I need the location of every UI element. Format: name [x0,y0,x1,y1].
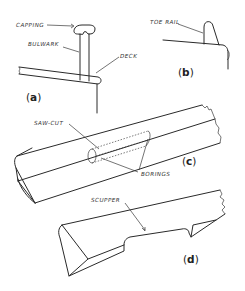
label-capping: CAPPING [16,22,44,28]
label-deck: DECK [120,53,138,59]
capping-shape [74,25,95,34]
label-bulwark: BULWARK [28,41,60,47]
label-scupper: SCUPPER [91,197,120,203]
panel-d: SCUPPER (d) [59,190,225,276]
caption-b: (b) [178,66,194,78]
label-borings: BORINGS [141,171,170,177]
panel-c: SAW-CUT BORINGS (c) [15,105,221,203]
toe-rail-shape [204,22,219,45]
caption-c: (c) [182,155,196,167]
label-toe-rail: TOE RAIL [150,19,180,25]
label-saw-cut: SAW-CUT [34,120,63,126]
bulwark-shape [80,34,89,81]
panel-a: CAPPING BULWARK DECK (a) [16,22,138,113]
boring-end [88,149,96,163]
panel-b: TOE RAIL (b) [150,19,229,78]
caption-a: (a) [26,91,41,103]
caption-d: (d) [183,253,199,265]
boat-parts-diagram: CAPPING BULWARK DECK (a) TOE RAIL (b) [0,0,245,291]
